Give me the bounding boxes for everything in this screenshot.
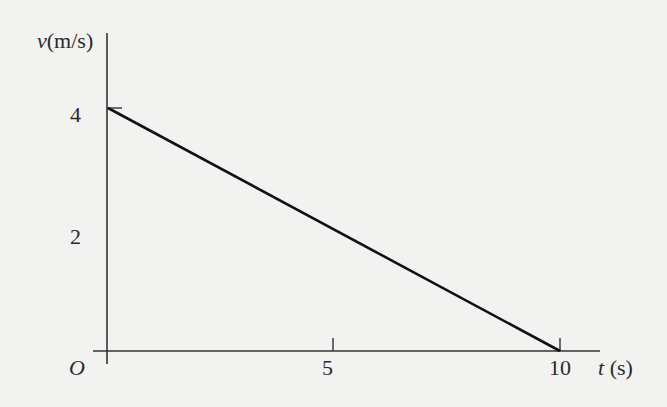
y-tick-label-2: 2 xyxy=(70,226,81,248)
y-axis-label: v(m/s) xyxy=(37,30,93,52)
x-axis-label: t (s) xyxy=(598,357,633,379)
velocity-time-chart xyxy=(0,0,667,407)
x-axis-variable: t xyxy=(598,355,604,380)
y-axis-unit: (m/s) xyxy=(47,28,93,53)
origin-label: O xyxy=(69,357,85,379)
x-tick-label-5: 5 xyxy=(322,357,333,379)
velocity-line xyxy=(108,108,560,351)
x-tick-label-10: 10 xyxy=(549,357,571,379)
x-axis-unit: (s) xyxy=(610,355,633,380)
y-axis-variable: v xyxy=(37,28,47,53)
y-tick-label-4: 4 xyxy=(70,104,81,126)
